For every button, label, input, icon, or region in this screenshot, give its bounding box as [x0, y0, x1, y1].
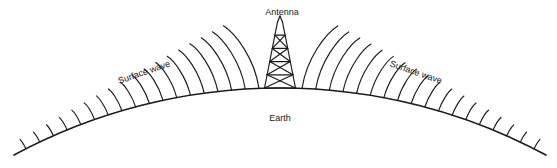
surface-wave-arc — [20, 139, 26, 148]
surface-wave-arc — [84, 103, 94, 120]
surface-wave-arcs-left — [20, 26, 259, 149]
surface-wave-arc — [438, 89, 451, 111]
surface-wave-arc — [46, 125, 53, 136]
tower-brace — [270, 62, 293, 75]
surface-wave-arc — [179, 50, 205, 93]
antenna-label: Antenna — [265, 7, 299, 17]
earth-label: Earth — [269, 113, 291, 123]
surface-wave-label-left: Surface wave — [117, 59, 172, 86]
surface-wave-arc — [96, 96, 108, 115]
surface-wave-arc — [329, 38, 359, 90]
surface-wave-arc — [167, 56, 190, 95]
surface-wave-arc — [357, 50, 383, 93]
tower-brace — [267, 62, 290, 75]
diagram-canvas: Antenna Earth Surface wave Surface wave — [0, 0, 557, 168]
surface-wave-label-right: Surface wave — [389, 59, 444, 86]
tower-brace — [265, 75, 293, 88]
surface-wave-arc — [466, 103, 476, 120]
antenna-tower — [265, 16, 296, 88]
surface-wave-arc — [507, 125, 514, 136]
surface-wave-arc — [452, 96, 464, 115]
surface-wave-arcs-right — [302, 26, 540, 149]
surface-wave-arc — [121, 82, 136, 107]
tower-brace — [267, 75, 295, 88]
surface-wave-propagation-diagram: Antenna Earth Surface wave Surface wave — [0, 0, 557, 168]
surface-wave-arc — [493, 117, 501, 130]
surface-wave-arc — [425, 82, 440, 107]
surface-wave-arc — [109, 89, 122, 111]
surface-wave-arc — [72, 110, 81, 124]
surface-wave-arc — [520, 132, 526, 142]
surface-wave-arc — [33, 132, 39, 142]
surface-wave-arc — [479, 110, 488, 124]
surface-wave-arc — [59, 117, 67, 130]
surface-wave-arc — [534, 139, 540, 148]
